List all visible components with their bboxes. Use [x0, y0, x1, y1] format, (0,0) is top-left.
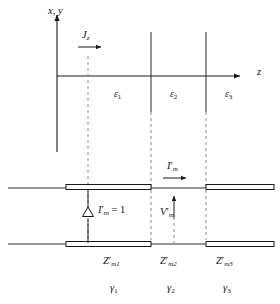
lower-line-section-1: [66, 242, 151, 247]
line-current-subscript: m: [173, 165, 178, 173]
gamma-2-subscript: 2: [171, 287, 175, 295]
epsilon-1-subscript: 1: [118, 93, 122, 101]
impedance-label-2: Z′m2: [160, 256, 177, 268]
gamma-1-subscript: 1: [114, 287, 118, 295]
propagation-constant-label-1: γ1: [110, 283, 118, 295]
physics-diagram: x, y z Jz ε1 ε2 ε3 I′m = 1 I′m V′m Z′m1 …: [0, 0, 280, 304]
epsilon-2-subscript: 2: [174, 93, 178, 101]
epsilon-3-subscript: 3: [229, 93, 233, 101]
line-current-label: I′m: [167, 161, 178, 173]
current-sheet-subscript: z: [87, 34, 90, 42]
current-source-value: = 1: [111, 204, 125, 215]
upper-line-section-1: [66, 185, 151, 190]
voltage-label: V′m: [160, 207, 174, 219]
current-source-subscript: m: [104, 209, 109, 217]
current-sheet-label: Jz: [82, 30, 89, 42]
region-label-epsilon-1: ε1: [114, 90, 121, 101]
horizontal-axis-label: z: [257, 67, 261, 78]
vertical-axis-label: x, y: [48, 6, 63, 17]
region-label-epsilon-3: ε3: [225, 90, 232, 101]
propagation-constant-label-2: γ2: [167, 283, 175, 295]
current-source-arrowhead-triangle: [83, 207, 94, 217]
impedance-1-subscript: m1: [111, 260, 120, 268]
diagram-canvas: [0, 0, 280, 304]
lower-line-section-3: [206, 242, 274, 247]
region-label-epsilon-2: ε2: [170, 90, 177, 101]
upper-line-section-3: [206, 185, 274, 190]
impedance-label-1: Z′m1: [103, 256, 120, 268]
voltage-subscript: m: [169, 211, 174, 219]
propagation-constant-label-3: γ3: [223, 283, 231, 295]
current-source-label: I′m = 1: [98, 205, 125, 217]
impedance-2-subscript: m2: [168, 260, 177, 268]
impedance-label-3: Z′m3: [216, 256, 233, 268]
impedance-3-subscript: m3: [224, 260, 233, 268]
gamma-3-subscript: 3: [227, 287, 231, 295]
